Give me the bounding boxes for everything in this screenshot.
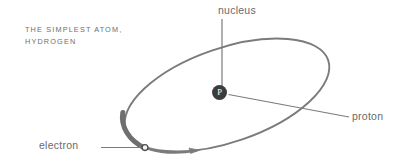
proton-leader-line	[229, 95, 350, 118]
motion-arrow-head	[189, 148, 200, 154]
hydrogen-atom-diagram: THE SIMPLEST ATOM,HYDROGEN P nucleus pro…	[0, 0, 408, 167]
label-electron: electron	[39, 139, 78, 151]
caption-line-2: HYDROGEN	[25, 37, 76, 46]
nucleus-proton-marker: P	[212, 85, 227, 100]
label-proton: proton	[352, 110, 383, 122]
caption-line-1: THE SIMPLEST ATOM,	[25, 25, 122, 34]
label-nucleus: nucleus	[218, 4, 256, 16]
proton-symbol-p: P	[217, 88, 222, 97]
diagram-caption: THE SIMPLEST ATOM,HYDROGEN	[25, 24, 122, 47]
electron-particle	[142, 145, 148, 151]
